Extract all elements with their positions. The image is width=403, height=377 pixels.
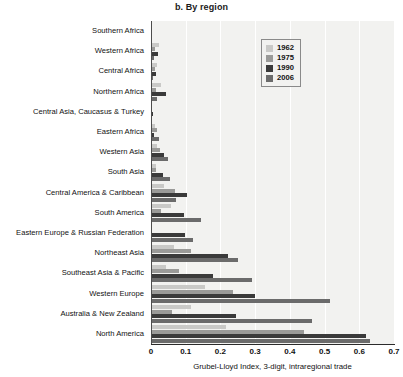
legend-swatch-icon [266,65,273,72]
y-axis-tick-label: Eastern Europe & Russian Federation [0,228,144,237]
y-axis-tick-label: Central Asia, Caucasus & Turkey [0,107,144,116]
bar-1962-11 [151,245,174,249]
bar-1990-11 [151,254,228,258]
x-axis-tick-label: 0.6 [354,347,365,356]
bar-1990-10 [151,233,185,237]
y-axis-tick-label: Central America & Caribbean [0,188,144,197]
legend-swatch-icon [266,45,273,52]
legend: 1962197519902006 [261,39,301,87]
x-axis-ticks: 00.10.20.30.40.50.60.7 [0,347,403,361]
gridline [359,21,360,344]
bar-2006-7 [151,177,170,181]
legend-label: 1975 [277,53,294,63]
bar-1962-3 [151,83,161,87]
x-axis-tick-label: 0.5 [319,347,330,356]
x-axis-tick-label: 0.1 [180,347,191,356]
bar-1990-1 [151,52,158,56]
legend-label: 1990 [277,63,294,73]
bar-2006-9 [151,218,201,222]
legend-label: 2006 [277,73,294,83]
gridline [325,21,326,344]
bar-1975-15 [151,330,304,334]
legend-item: 1962 [266,43,294,53]
gridline [394,21,395,344]
bar-2006-11 [151,258,238,262]
y-axis-tick-label: Northeast Asia [0,248,144,257]
bar-2006-8 [151,198,176,202]
bar-1962-8 [151,184,164,188]
x-axis-tick-label: 0.3 [250,347,261,356]
bar-2006-5 [151,137,159,141]
bar-1990-8 [151,193,187,197]
legend-item: 2006 [266,73,294,83]
y-axis-tick-label: Western Asia [0,147,144,156]
x-axis-tick-label: 0 [149,347,153,356]
y-axis-line [151,21,152,344]
bar-1990-15 [151,334,366,338]
y-axis-tick-label: Central Africa [0,66,144,75]
legend-swatch-icon [266,55,273,62]
bar-1990-9 [151,213,184,217]
bar-1962-9 [151,204,171,208]
bar-1962-13 [151,285,205,289]
x-axis-tick-label: 0.4 [284,347,295,356]
bar-2006-15 [151,339,370,343]
y-axis-tick-label: Australia & New Zealand [0,309,144,318]
bar-1962-12 [151,265,166,269]
bar-1975-14 [151,310,172,314]
x-axis-line [151,344,395,345]
bar-2006-10 [151,238,193,242]
legend-swatch-icon [266,75,273,82]
bar-1990-12 [151,274,213,278]
legend-label: 1962 [277,43,294,53]
y-axis-tick-label: South Asia [0,167,144,176]
x-axis-tick-label: 0.2 [215,347,226,356]
gridline [255,21,256,344]
y-axis-tick-label: Southeast Asia & Pacific [0,268,144,277]
bar-1990-6 [151,153,164,157]
x-axis-title: Grubel-Lloyd Index, 3-digit, intraregion… [151,362,394,371]
bar-2006-6 [151,157,168,161]
bar-1975-13 [151,290,233,294]
y-axis-tick-label: South America [0,208,144,217]
bar-2006-12 [151,278,252,282]
bar-1975-11 [151,249,191,253]
legend-item: 1990 [266,63,294,73]
bar-1975-12 [151,269,179,273]
bar-1975-9 [151,209,161,213]
bar-1962-15 [151,325,226,329]
bar-1990-14 [151,314,236,318]
y-axis-tick-label: Western Africa [0,46,144,55]
y-axis-tick-label: Southern Africa [0,26,144,35]
y-axis-tick-label: Western Europe [0,289,144,298]
y-axis-labels: Southern AfricaWestern AfricaCentral Afr… [0,21,148,344]
bar-1990-13 [151,294,255,298]
bar-1975-8 [151,189,175,193]
bar-2006-13 [151,299,330,303]
bar-1990-3 [151,92,166,96]
page-title: b. By region [0,2,403,12]
y-axis-tick-label: Northern Africa [0,87,144,96]
x-axis-tick-label: 0.7 [388,347,399,356]
y-axis-tick-label: North America [0,329,144,338]
legend-item: 1975 [266,53,294,63]
y-axis-tick-label: Eastern Africa [0,127,144,136]
bar-1990-7 [151,173,163,177]
bar-2006-14 [151,319,312,323]
bar-1962-14 [151,305,191,309]
bar-1962-1 [151,43,159,47]
figure-panel: b. By region Southern AfricaWestern Afri… [0,0,403,377]
bar-1975-6 [151,148,160,152]
